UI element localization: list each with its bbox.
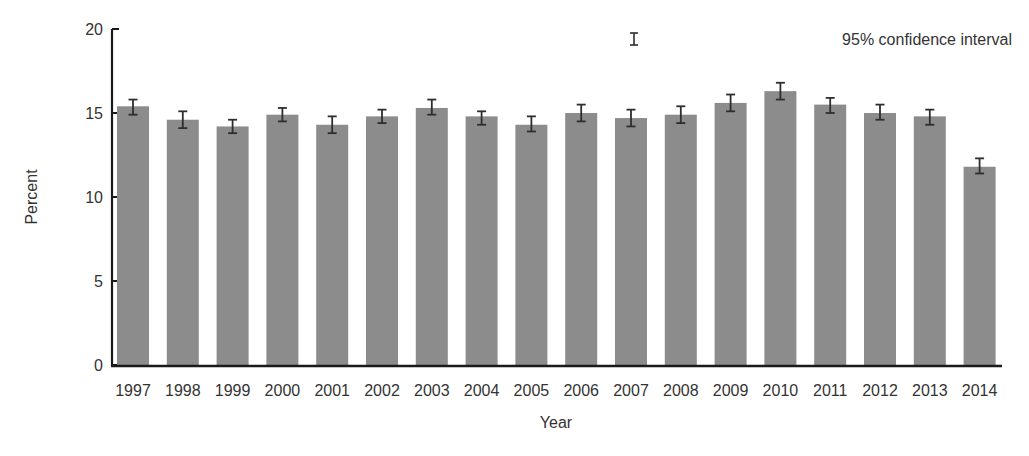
x-tick-label: 2003 <box>414 382 450 399</box>
x-tick-label: 2013 <box>912 382 948 399</box>
bar-group <box>416 100 448 365</box>
x-tick-label: 1997 <box>115 382 151 399</box>
bar-group <box>117 100 149 365</box>
bar <box>665 115 697 365</box>
bar-group <box>466 111 498 365</box>
x-tick-label: 2006 <box>563 382 599 399</box>
bar-group <box>515 116 547 365</box>
bar-group <box>366 110 398 365</box>
bar <box>964 167 996 365</box>
bars <box>117 83 996 365</box>
y-axis-title: Percent <box>23 169 40 225</box>
x-tick-label: 2007 <box>613 382 649 399</box>
bar <box>167 120 199 365</box>
y-tick-label: 15 <box>85 105 103 122</box>
y-tick-label: 0 <box>94 357 103 374</box>
bar <box>864 113 896 365</box>
x-tick-label: 2005 <box>514 382 550 399</box>
bar <box>715 103 747 365</box>
legend-label: 95% confidence interval <box>842 31 1012 48</box>
bar <box>266 115 298 365</box>
bar <box>466 116 498 365</box>
bar-group <box>964 158 996 365</box>
x-tick-label: 2001 <box>314 382 350 399</box>
x-axis: 1997199819992000200120022003200420052006… <box>111 366 1002 399</box>
bar-group <box>266 108 298 365</box>
legend: 95% confidence interval <box>630 31 1012 48</box>
x-tick-label: 1998 <box>165 382 201 399</box>
bar <box>764 91 796 365</box>
bar <box>117 106 149 365</box>
bar-group <box>814 98 846 365</box>
bar-group <box>864 105 896 365</box>
bar-group <box>914 110 946 365</box>
x-tick-label: 2002 <box>364 382 400 399</box>
bar <box>515 125 547 365</box>
x-tick-label: 1999 <box>215 382 251 399</box>
x-tick-label: 2011 <box>813 382 848 399</box>
bar-group <box>665 106 697 365</box>
bar-group <box>316 116 348 365</box>
bar <box>814 105 846 365</box>
x-tick-label: 2008 <box>663 382 699 399</box>
x-tick-label: 2004 <box>464 382 500 399</box>
y-tick-label: 5 <box>94 273 103 290</box>
bar-group <box>764 83 796 365</box>
x-tick-label: 2014 <box>962 382 998 399</box>
x-tick-label: 2009 <box>713 382 749 399</box>
bar <box>615 118 647 365</box>
bar <box>416 108 448 365</box>
y-axis: 05101520 <box>85 21 119 374</box>
bar-group <box>565 105 597 365</box>
bar <box>217 126 249 365</box>
bar-group <box>167 111 199 365</box>
x-tick-label: 2010 <box>763 382 799 399</box>
x-tick-label: 2000 <box>265 382 301 399</box>
y-tick-label: 20 <box>85 21 103 38</box>
y-tick-label: 10 <box>85 189 103 206</box>
bar <box>316 125 348 365</box>
bar <box>565 113 597 365</box>
bar-group <box>615 110 647 365</box>
x-axis-title: Year <box>540 414 573 431</box>
x-tick-label: 2012 <box>862 382 898 399</box>
confidence-interval-icon <box>630 33 638 45</box>
bar <box>366 116 398 365</box>
bar-chart: 05101520 1997199819992000200120022003200… <box>0 0 1029 456</box>
bar-group <box>715 95 747 365</box>
bar <box>914 116 946 365</box>
bar-group <box>217 120 249 365</box>
